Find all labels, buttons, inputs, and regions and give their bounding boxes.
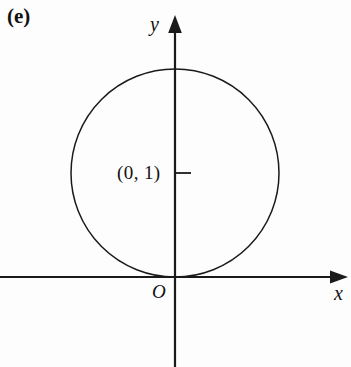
figure-container: (e) y x O (0, 1) bbox=[0, 0, 351, 367]
part-label: (e) bbox=[7, 6, 30, 27]
y-axis-label: y bbox=[150, 14, 159, 34]
center-point-label: (0, 1) bbox=[117, 163, 161, 182]
x-axis-label: x bbox=[334, 283, 343, 303]
y-axis-arrowhead bbox=[168, 15, 182, 33]
origin-label: O bbox=[152, 282, 166, 301]
coordinate-plane-drawing bbox=[0, 0, 351, 367]
